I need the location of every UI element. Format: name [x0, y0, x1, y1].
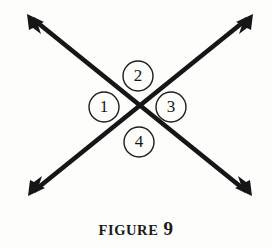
angle-label-1-text: 1 — [100, 97, 109, 116]
angle-label-4: 4 — [124, 127, 154, 157]
angle-label-3: 3 — [156, 92, 186, 122]
figure-caption-word: FIGURE — [98, 222, 158, 238]
angle-label-2-text: 2 — [134, 66, 143, 85]
angle-label-4-text: 4 — [135, 132, 144, 151]
figure-caption: FIGURE9 — [0, 218, 272, 240]
figure-caption-number: 9 — [163, 218, 173, 239]
angle-label-3-text: 3 — [167, 97, 176, 116]
figure-container: 1 2 3 4 FIGURE9 — [0, 0, 272, 248]
angle-label-2: 2 — [123, 61, 153, 91]
angle-label-1: 1 — [89, 92, 119, 122]
crossing-lines-diagram: 1 2 3 4 — [0, 0, 272, 248]
